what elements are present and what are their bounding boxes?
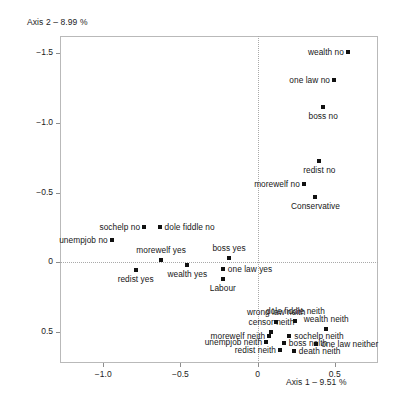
- data-point-label: redist no: [259, 165, 379, 175]
- y-tick-mark: [56, 193, 60, 194]
- data-point-label: boss yes: [169, 243, 289, 253]
- x-tick-label: 0: [228, 369, 288, 379]
- data-point-label: wealth no: [224, 47, 344, 57]
- data-point-label: sochelp no: [20, 222, 140, 232]
- data-point-marker[interactable]: [185, 263, 189, 267]
- data-point-label: boss no: [263, 111, 383, 121]
- y-tick-mark: [56, 332, 60, 333]
- y-tick-label: −1.0: [36, 117, 53, 127]
- data-point-label: Labour: [163, 283, 283, 293]
- x-tick-label: −1.0: [73, 369, 133, 379]
- x-tick-mark: [258, 363, 259, 367]
- x-tick-mark: [335, 363, 336, 367]
- y-tick-label: 0.5: [41, 326, 53, 336]
- data-point-marker[interactable]: [313, 195, 317, 199]
- data-point-marker[interactable]: [267, 334, 271, 338]
- data-point-marker[interactable]: [282, 341, 286, 345]
- scatter-plot-figure: Axis 2 – 8.99 % Axis 1 – 9.51 % −1.5−1.0…: [0, 0, 406, 404]
- data-point-label: redist neith: [156, 345, 276, 355]
- x-tick-label: −0.5: [150, 369, 210, 379]
- y-tick-mark: [56, 123, 60, 124]
- data-point-label: censor neith: [211, 317, 331, 327]
- x-tick-label: 0.5: [305, 369, 365, 379]
- y-tick-label: −0.5: [36, 187, 53, 197]
- y-tick-label: 0: [48, 256, 53, 266]
- data-point-marker[interactable]: [346, 50, 350, 54]
- y-axis-title: Axis 2 – 8.99 %: [27, 17, 88, 27]
- data-point-label: dole fiddle no: [165, 222, 285, 232]
- data-point-label: unempjob no: [0, 235, 108, 245]
- data-point-marker[interactable]: [278, 348, 282, 352]
- data-point-label: Conservative: [255, 201, 375, 211]
- x-tick-mark: [180, 363, 181, 367]
- y-tick-mark: [56, 53, 60, 54]
- data-point-marker[interactable]: [292, 349, 296, 353]
- data-point-marker[interactable]: [317, 159, 321, 163]
- data-point-marker[interactable]: [221, 277, 225, 281]
- data-point-label: one law yes: [228, 264, 348, 274]
- data-point-marker[interactable]: [321, 105, 325, 109]
- data-point-label: one law no: [210, 75, 330, 85]
- data-point-marker[interactable]: [158, 225, 162, 229]
- data-point-marker[interactable]: [332, 78, 336, 82]
- data-point-marker[interactable]: [227, 256, 231, 260]
- data-point-marker[interactable]: [264, 340, 268, 344]
- data-point-marker[interactable]: [302, 182, 306, 186]
- y-tick-label: −1.5: [36, 47, 53, 57]
- data-point-label: death neith: [299, 346, 406, 356]
- x-tick-mark: [103, 363, 104, 367]
- data-point-marker[interactable]: [110, 238, 114, 242]
- data-point-marker[interactable]: [134, 268, 138, 272]
- data-point-marker[interactable]: [159, 258, 163, 262]
- data-point-marker[interactable]: [142, 225, 146, 229]
- data-point-label: morewelf no: [180, 179, 300, 189]
- data-point-marker[interactable]: [221, 267, 225, 271]
